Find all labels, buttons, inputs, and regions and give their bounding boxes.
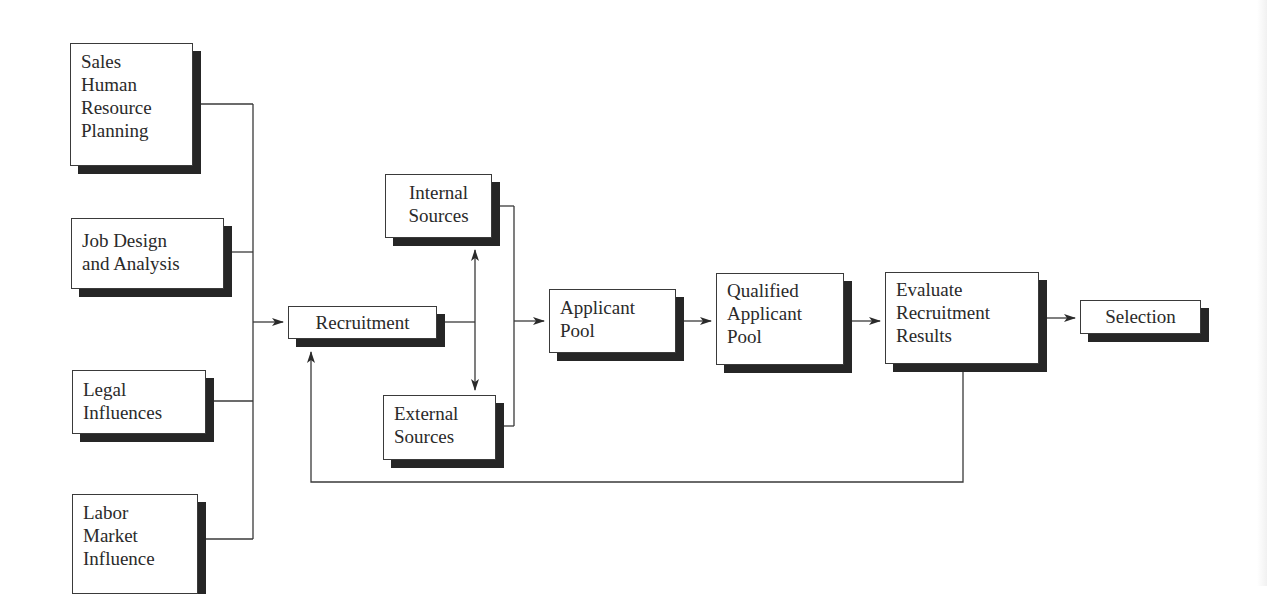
box-selection: Selection: [1080, 300, 1201, 334]
box-label-line: Applicant: [727, 302, 833, 325]
box-label-line: Human: [81, 73, 182, 96]
box-sales-human-resource-planning: Sales Human Resource Planning: [70, 43, 193, 166]
box-label-line: Recruitment: [896, 301, 1028, 324]
box-evaluate-recruitment-results: Evaluate Recruitment Results: [885, 272, 1039, 364]
box-label-line: Sales: [81, 50, 182, 73]
box-label-line: Selection: [1091, 305, 1190, 328]
box-label-line: External: [394, 402, 485, 425]
box-label-line: Influences: [83, 401, 195, 424]
box-label-line: Recruitment: [299, 311, 426, 334]
box-job-design-and-analysis: Job Design and Analysis: [71, 218, 224, 289]
box-label-line: Legal: [83, 378, 195, 401]
box-label-line: Evaluate: [896, 278, 1028, 301]
box-label-line: Pool: [727, 325, 833, 348]
box-label-line: Applicant: [560, 296, 665, 319]
box-external-sources: External Sources: [383, 395, 496, 460]
box-label-line: Planning: [81, 119, 182, 142]
box-recruitment: Recruitment: [288, 306, 437, 339]
box-label-line: Results: [896, 324, 1028, 347]
box-label-line: Market: [83, 524, 187, 547]
box-label-line: Qualified: [727, 279, 833, 302]
box-qualified-applicant-pool: Qualified Applicant Pool: [716, 273, 844, 365]
box-label-line: Resource: [81, 96, 182, 119]
box-label-line: Sources: [396, 204, 481, 227]
box-label-line: Labor: [83, 501, 187, 524]
box-label-line: Sources: [394, 425, 485, 448]
box-legal-influences: Legal Influences: [72, 370, 206, 434]
box-label-line: Job Design: [82, 229, 213, 252]
box-label-line: Internal: [396, 181, 481, 204]
page-edge-shading: [1257, 0, 1267, 586]
box-applicant-pool: Applicant Pool: [549, 289, 676, 353]
box-label-line: Pool: [560, 319, 665, 342]
box-label-line: and Analysis: [82, 252, 213, 275]
box-labor-market-influence: Labor Market Influence: [72, 494, 198, 594]
box-internal-sources: Internal Sources: [385, 174, 492, 238]
box-label-line: Influence: [83, 547, 187, 570]
